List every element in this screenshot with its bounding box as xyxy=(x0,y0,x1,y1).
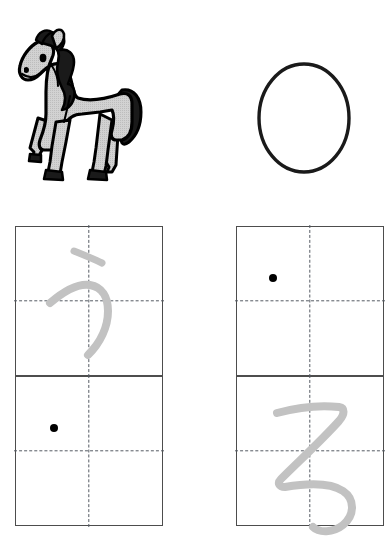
practice-cell-1[interactable] xyxy=(15,226,163,376)
practice-cell-3[interactable] xyxy=(236,226,384,376)
horse-eye xyxy=(40,54,47,62)
guide-line-vertical xyxy=(88,375,89,526)
horse-hoof-front-far xyxy=(29,154,41,162)
guide-line-vertical xyxy=(88,225,89,376)
horse-hoof-front-near xyxy=(44,170,63,180)
practice-cell-4[interactable] xyxy=(236,376,384,526)
practice-grid xyxy=(0,210,351,480)
circle-outline xyxy=(259,64,349,172)
kana-u-stroke-2 xyxy=(50,285,108,355)
horse-nostril xyxy=(24,67,29,73)
circle-illustration xyxy=(252,57,351,179)
start-point-dot xyxy=(269,274,277,282)
horse-illustration xyxy=(8,22,148,197)
guide-line-vertical xyxy=(309,375,310,526)
guide-line-vertical xyxy=(309,225,310,376)
start-point-dot xyxy=(50,424,58,432)
kana-ru-stroke-1 xyxy=(277,406,352,531)
illustration-row xyxy=(0,0,351,210)
horse-hoof-hind-near xyxy=(88,170,107,180)
practice-cell-2[interactable] xyxy=(15,376,163,526)
